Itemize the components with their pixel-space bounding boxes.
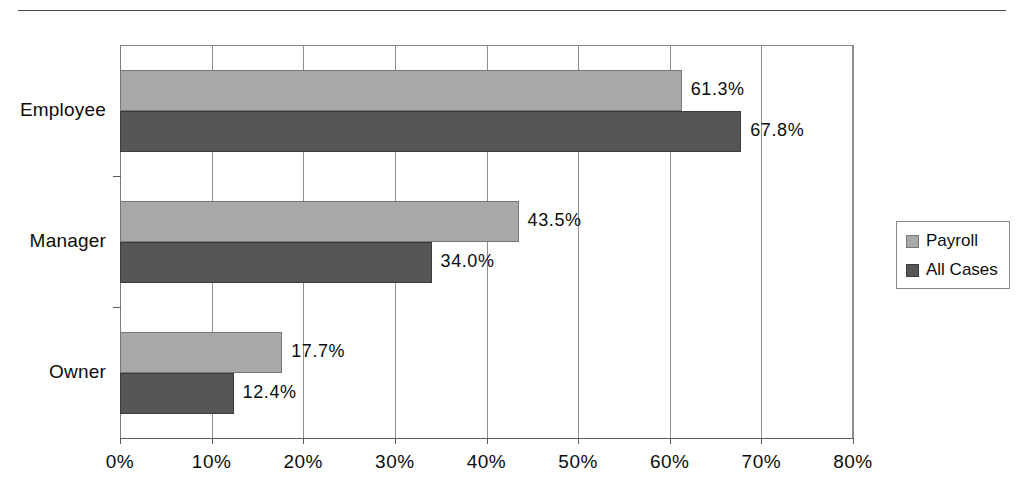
legend-swatch-payroll-icon — [906, 235, 919, 248]
bar-value-label: 67.8% — [750, 120, 804, 141]
x-axis-tick-label: 10% — [167, 451, 257, 473]
x-axis-tick — [670, 438, 671, 444]
bar — [120, 70, 682, 111]
x-axis-tick — [212, 438, 213, 444]
legend-swatch-all-cases-icon — [906, 264, 919, 277]
category-label: Manager — [0, 230, 106, 252]
bar — [120, 332, 282, 373]
bar — [120, 373, 234, 414]
bar-value-label: 34.0% — [441, 251, 495, 272]
bar-value-label: 17.7% — [291, 341, 345, 362]
legend-item-all-cases: All Cases — [906, 260, 998, 280]
chart-figure: 61.3%67.8%43.5%34.0%17.7%12.4% 0%10%20%3… — [0, 0, 1017, 504]
category-label: Employee — [0, 99, 106, 121]
category-label: Owner — [0, 361, 106, 383]
bar-value-label: 43.5% — [528, 210, 582, 231]
bar-value-label: 12.4% — [243, 382, 297, 403]
chart-legend: Payroll All Cases — [896, 221, 1010, 289]
x-axis-tick — [303, 438, 304, 444]
x-axis-tick — [853, 438, 854, 444]
x-axis-tick-label: 60% — [625, 451, 715, 473]
x-axis-tick — [487, 438, 488, 444]
gridline — [853, 45, 854, 438]
bar — [120, 201, 519, 242]
x-axis-tick — [120, 438, 121, 444]
x-axis-tick-label: 50% — [533, 451, 623, 473]
x-axis-tick-label: 20% — [258, 451, 348, 473]
legend-label-all-cases: All Cases — [926, 260, 998, 280]
x-axis-tick-label: 70% — [716, 451, 806, 473]
plot-area: 61.3%67.8%43.5%34.0%17.7%12.4% — [120, 45, 853, 438]
bar — [120, 111, 741, 152]
x-axis-tick-label: 0% — [75, 451, 165, 473]
x-axis-tick — [395, 438, 396, 444]
bar-value-label: 61.3% — [691, 79, 745, 100]
x-axis-tick — [578, 438, 579, 444]
gridline — [761, 45, 762, 438]
y-axis-tick — [113, 307, 121, 308]
x-axis-tick-label: 40% — [442, 451, 532, 473]
top-divider-rule — [18, 10, 1006, 11]
x-axis-tick-label: 80% — [808, 451, 898, 473]
bar — [120, 242, 432, 283]
legend-label-payroll: Payroll — [926, 231, 978, 251]
x-axis-tick-label: 30% — [350, 451, 440, 473]
y-axis-tick — [113, 176, 121, 177]
x-axis-tick — [761, 438, 762, 444]
legend-item-payroll: Payroll — [906, 231, 978, 251]
